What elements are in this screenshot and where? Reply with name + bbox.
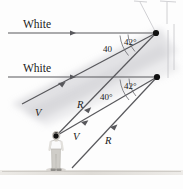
observer-arm-left: [49, 142, 50, 150]
observer-arm-right: [62, 142, 63, 150]
label-white-upper: White: [23, 18, 51, 30]
ground-strip: [0, 170, 183, 175]
upper-raindrop: [153, 30, 159, 36]
label-angle-upper-outer: 42°: [124, 37, 137, 47]
diagram-canvas: White White 40 42° 40° 42° V R V R: [0, 0, 183, 189]
label-red-lower: R: [104, 135, 112, 146]
observer-eye-point: [53, 133, 58, 138]
label-angle-lower-outer: 42°: [124, 81, 137, 91]
label-white-lower: White: [23, 62, 51, 74]
rainbow-diagram-figure: White White 40 42° 40° 42° V R V R: [0, 0, 183, 189]
lower-raindrop: [154, 74, 160, 80]
observer-shadow: [46, 168, 66, 173]
observer-shoe-right: [56, 169, 61, 171]
label-angle-upper-inner: 40: [103, 44, 113, 54]
observer-shoe-left: [51, 169, 56, 171]
label-red-upper: R: [76, 99, 84, 110]
label-angle-lower-inner: 40°: [100, 92, 113, 102]
